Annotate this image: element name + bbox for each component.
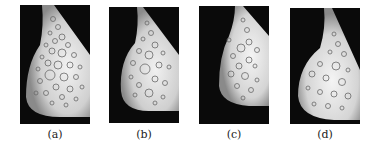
mammogram-image-b bbox=[109, 7, 179, 123]
panel-a bbox=[20, 5, 90, 124]
caption-d: (d) bbox=[290, 128, 360, 141]
caption-c: (c) bbox=[199, 128, 269, 141]
mammogram-image-d bbox=[290, 8, 360, 124]
mammogram-image-c bbox=[199, 6, 269, 124]
caption-b: (b) bbox=[109, 128, 179, 141]
panel-c bbox=[199, 6, 269, 124]
panel-d bbox=[290, 8, 360, 124]
caption-a: (a) bbox=[20, 128, 90, 141]
panel-b bbox=[109, 7, 179, 123]
mammogram-image-a bbox=[20, 5, 90, 124]
